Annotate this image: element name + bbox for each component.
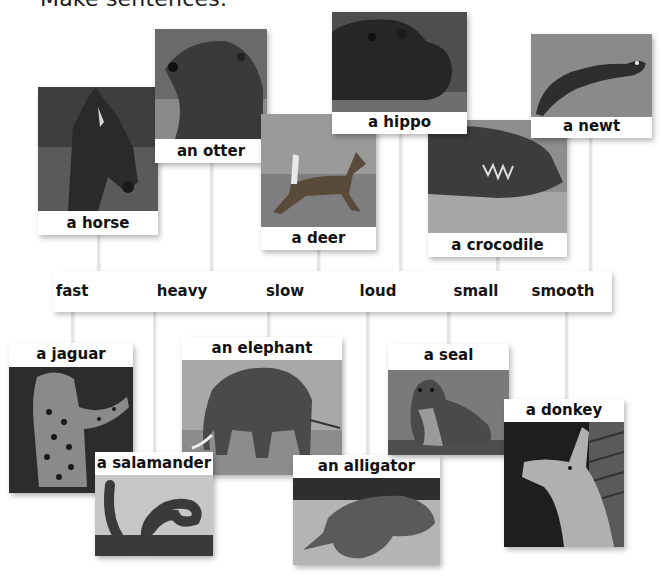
otter-photo [155, 29, 267, 139]
label-newt: a newt [531, 115, 652, 138]
label-donkey: a donkey [504, 399, 624, 422]
instruction-text: Make sentences. [40, 0, 227, 11]
card-deer[interactable]: a deer [261, 114, 376, 250]
card-donkey[interactable]: a donkey [504, 399, 624, 547]
donkey-photo [504, 422, 624, 547]
label-otter: an otter [155, 140, 267, 163]
connector-deer [317, 250, 320, 271]
connector-otter [210, 163, 213, 271]
connector-horse [97, 235, 100, 271]
label-crocodile: a crocodile [428, 234, 567, 257]
adjective-heavy[interactable]: heavy [157, 271, 208, 312]
adjective-small[interactable]: small [454, 271, 499, 312]
connector-crocodile [496, 257, 499, 271]
salamander-photo [95, 475, 213, 556]
connector-alligator [366, 312, 369, 455]
adjective-fast[interactable]: fast [56, 271, 89, 312]
label-jaguar: a jaguar [9, 343, 133, 366]
card-seal[interactable]: a seal [388, 344, 509, 455]
card-alligator[interactable]: an alligator [293, 455, 440, 565]
connector-elephant [267, 312, 270, 337]
card-newt[interactable]: a newt [531, 34, 652, 138]
alligator-photo [293, 478, 440, 565]
adjective-slow[interactable]: slow [266, 271, 304, 312]
card-crocodile[interactable]: a crocodile [428, 120, 567, 257]
adjective-smooth[interactable]: smooth [531, 271, 594, 312]
horse-photo [38, 87, 158, 211]
label-elephant: an elephant [182, 337, 342, 360]
hippo-photo [332, 12, 467, 112]
connector-donkey [565, 312, 568, 399]
connector-jaguar [71, 312, 74, 343]
seal-photo [388, 370, 509, 455]
adjective-loud[interactable]: loud [360, 271, 397, 312]
label-seal: a seal [388, 344, 509, 367]
label-hippo: a hippo [332, 111, 467, 134]
connector-hippo [399, 134, 402, 271]
connector-salamander [153, 312, 156, 452]
label-deer: a deer [261, 227, 376, 250]
label-salamander: a salamander [95, 452, 213, 475]
card-otter[interactable]: an otter [155, 29, 267, 163]
connector-newt [589, 138, 592, 271]
newt-photo [531, 34, 652, 117]
label-alligator: an alligator [293, 455, 440, 478]
adjectives-bar: fast heavy slow loud small smooth [53, 271, 612, 312]
card-hippo[interactable]: a hippo [332, 12, 467, 134]
card-horse[interactable]: a horse [38, 87, 158, 235]
card-salamander[interactable]: a salamander [95, 452, 213, 556]
label-horse: a horse [38, 212, 158, 235]
connector-seal [447, 312, 450, 344]
